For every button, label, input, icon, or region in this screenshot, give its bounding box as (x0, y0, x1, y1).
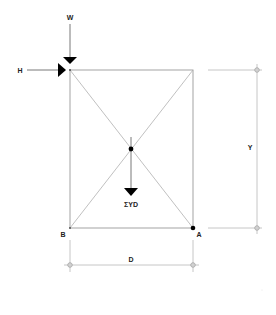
corner-label-b: B (60, 231, 65, 238)
height-dimension-label: Y (248, 144, 253, 151)
center-node (129, 147, 134, 152)
arrowhead-right-icon (58, 63, 66, 77)
frame-diagram: W H ΣYD B A Y D (0, 0, 276, 315)
resultant-label: ΣYD (124, 201, 138, 208)
vertical-load-arrow (63, 24, 77, 64)
width-dimension-label: D (128, 256, 133, 263)
arrowhead-down-icon (63, 57, 77, 64)
horizontal-load-arrow (27, 63, 66, 77)
corner-node-top-left (69, 69, 71, 71)
corner-label-a: A (196, 231, 201, 238)
height-dimension (208, 64, 262, 234)
horizontal-load-label: H (17, 67, 22, 74)
resultant-arrowhead-icon (124, 188, 138, 196)
vertical-load-label: W (67, 14, 74, 21)
speck (262, 290, 263, 291)
corner-node-a (191, 226, 196, 231)
corner-node-b (69, 227, 71, 229)
